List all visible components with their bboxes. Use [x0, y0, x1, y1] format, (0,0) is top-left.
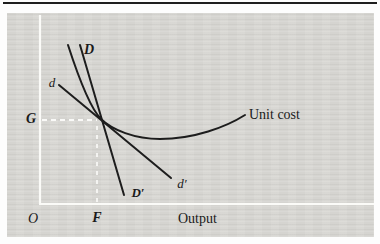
label-d-prime: d′: [177, 177, 186, 190]
diagram-canvas: [0, 0, 380, 244]
label-d: d: [49, 76, 56, 89]
x-tick-label-F: F: [92, 211, 101, 225]
label-D-prime: D′: [131, 186, 144, 199]
label-unit-cost: Unit cost: [249, 108, 300, 122]
scanned-figure-page: D d D′ d′ Unit cost G O F Output: [0, 0, 380, 244]
origin-label-O: O: [28, 212, 38, 226]
label-D: D: [84, 43, 94, 57]
y-tick-label-G: G: [26, 112, 36, 126]
x-axis-label-output: Output: [178, 212, 217, 226]
